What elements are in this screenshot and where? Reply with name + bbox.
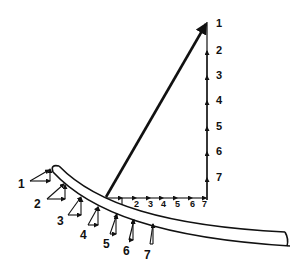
svg-text:7: 7 xyxy=(144,248,151,262)
svg-text:6: 6 xyxy=(123,244,130,258)
diagram-canvas: 1 2 3 4 5 6 7 2 3 4 5 6 7 xyxy=(0,0,303,277)
svg-text:5: 5 xyxy=(103,237,110,251)
svg-text:3: 3 xyxy=(216,69,222,81)
horizontal-axis-labels: 2 3 4 5 6 7 xyxy=(134,199,207,209)
svg-text:5: 5 xyxy=(175,199,180,209)
svg-text:5: 5 xyxy=(216,120,222,132)
svg-text:6: 6 xyxy=(190,199,195,209)
svg-text:7: 7 xyxy=(216,171,222,183)
svg-text:4: 4 xyxy=(161,199,166,209)
svg-text:6: 6 xyxy=(216,145,222,157)
svg-text:4: 4 xyxy=(80,228,87,242)
curved-beam xyxy=(52,166,290,246)
resultant-vector-arrow xyxy=(106,24,206,197)
vertical-axis-labels: 1 2 3 4 5 6 7 xyxy=(216,17,223,183)
svg-text:4: 4 xyxy=(216,94,223,106)
vector-diagram: 1 2 3 4 5 6 7 2 3 4 5 6 7 xyxy=(0,0,303,277)
svg-text:1: 1 xyxy=(18,177,25,191)
svg-text:3: 3 xyxy=(57,214,64,228)
svg-text:2: 2 xyxy=(216,44,222,56)
svg-text:2: 2 xyxy=(34,197,41,211)
svg-text:7: 7 xyxy=(202,199,207,209)
svg-text:2: 2 xyxy=(134,199,139,209)
svg-text:1: 1 xyxy=(216,17,222,29)
svg-text:3: 3 xyxy=(148,199,153,209)
